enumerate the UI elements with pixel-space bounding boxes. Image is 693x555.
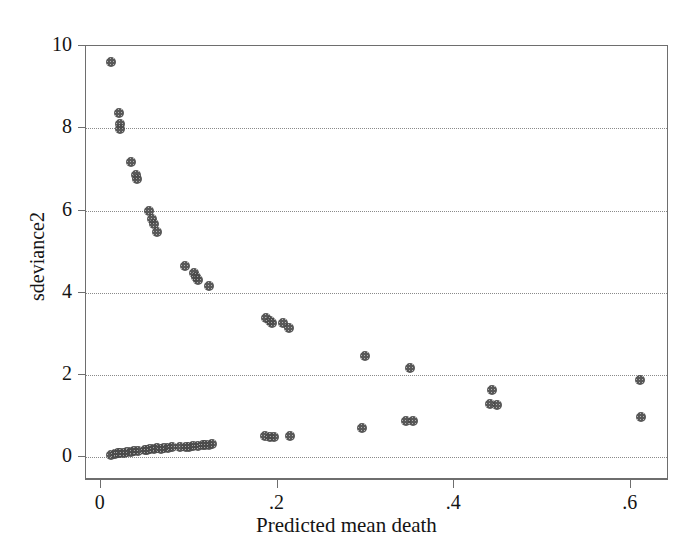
data-point [126, 157, 136, 167]
y-tick-4 [78, 292, 86, 293]
data-point [408, 416, 418, 426]
data-point [635, 375, 645, 385]
data-point [284, 323, 294, 333]
y-axis-title: sdeviance2 [26, 157, 49, 357]
data-point [180, 261, 190, 271]
y-tick-label-0: 0 [26, 445, 72, 465]
data-point [636, 412, 646, 422]
x-axis-title: Predicted mean death [0, 513, 693, 538]
x-tick-label-.4: .4 [423, 491, 483, 513]
x-tick-.4 [453, 479, 454, 488]
gridline-y-0 [86, 457, 667, 458]
x-tick-.2 [277, 479, 278, 488]
data-point [360, 351, 370, 361]
y-tick-label-10: 10 [26, 34, 72, 54]
data-point [152, 227, 162, 237]
data-point [492, 400, 502, 410]
data-point [114, 108, 124, 118]
gridline-y-8 [86, 128, 667, 129]
x-tick-0 [100, 479, 101, 488]
y-tick-label-2: 2 [26, 363, 72, 383]
y-tick-2 [78, 374, 86, 375]
gridline-y-6 [86, 211, 667, 212]
y-tick-label-8: 8 [26, 116, 72, 136]
y-tick-10 [78, 45, 86, 46]
data-point [106, 57, 116, 67]
gridline-y-4 [86, 293, 667, 294]
data-point [357, 423, 367, 433]
data-point [156, 444, 166, 454]
plot-frame [85, 45, 668, 479]
x-axis-line [85, 479, 668, 480]
y-axis-line [85, 45, 86, 479]
y-tick-8 [78, 127, 86, 128]
x-tick-label-.2: .2 [247, 491, 307, 513]
data-point [200, 440, 210, 450]
data-point [193, 275, 203, 285]
gridline-y-2 [86, 375, 667, 376]
data-point [269, 432, 279, 442]
x-tick-.6 [630, 479, 631, 488]
data-point [181, 442, 191, 452]
data-point [285, 431, 295, 441]
x-tick-label-0: 0 [70, 491, 130, 513]
x-tick-label-.6: .6 [600, 491, 660, 513]
data-point [204, 281, 214, 291]
data-point [132, 174, 142, 184]
data-point [115, 124, 125, 134]
data-point [267, 318, 277, 328]
y-tick-6 [78, 210, 86, 211]
scatter-plot-figure: 0246810 sdeviance2 0.2.4.6 Predicted mea… [0, 0, 693, 555]
data-point [119, 448, 129, 458]
y-tick-0 [78, 456, 86, 457]
data-point [405, 363, 415, 373]
data-point [487, 385, 497, 395]
